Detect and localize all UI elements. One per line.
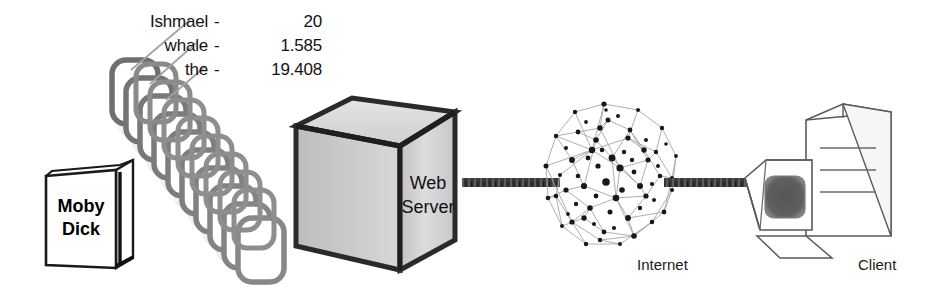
- internet-network-graph: [544, 101, 678, 246]
- client-label: Client: [858, 256, 896, 273]
- web-server-label: Web Server: [392, 172, 464, 220]
- index-term-count: 19.408: [232, 60, 322, 80]
- keyboard-base: [757, 236, 832, 258]
- web-server-label-line-1: Web: [392, 172, 464, 196]
- index-term-word: whale: [88, 36, 208, 56]
- network-edges: [546, 104, 676, 244]
- cube-left-face: [296, 126, 400, 270]
- index-term-separator: -: [214, 36, 219, 56]
- index-term-separator: -: [214, 60, 219, 80]
- index-term-count: 1.585: [232, 36, 322, 56]
- network-nodes: [544, 101, 678, 246]
- index-term-word: the: [88, 60, 208, 80]
- index-term-count: 20: [232, 12, 322, 32]
- network-link-line: [664, 178, 750, 187]
- link-internet-to-client: [664, 178, 750, 187]
- web-server-label-line-2: Server: [392, 196, 464, 220]
- book-title: Moby Dick: [46, 195, 116, 242]
- link-server-to-internet: [462, 178, 560, 187]
- network-link-line: [462, 178, 560, 187]
- monitor-screen: [765, 176, 805, 218]
- client-computer: [745, 104, 891, 258]
- diagram-canvas: Ishmael - 20 whale - 1.585 the - 19.408 …: [0, 0, 932, 303]
- internet-label: Internet: [637, 256, 688, 273]
- book-title-line-2: Dick: [46, 218, 116, 241]
- book-title-line-1: Moby: [46, 195, 116, 218]
- index-term-word: Ishmael: [88, 12, 208, 32]
- document-page-stack: [112, 60, 284, 282]
- index-term-separator: -: [214, 12, 219, 32]
